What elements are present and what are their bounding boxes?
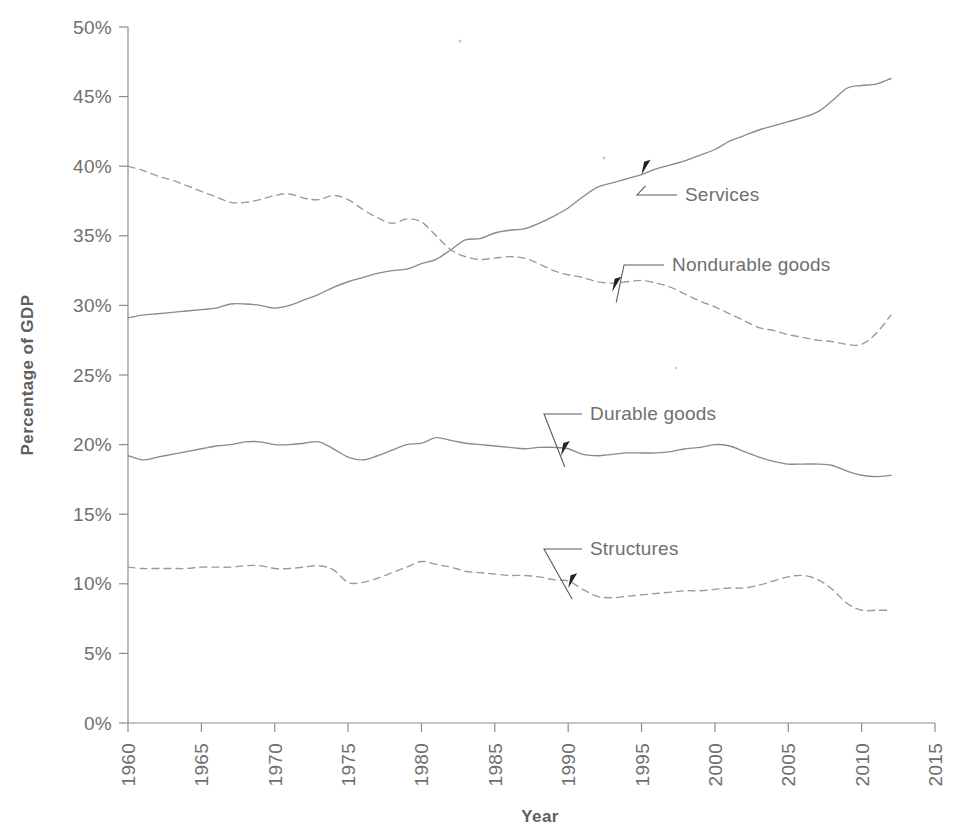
annotation-callout: Durable goods	[544, 403, 716, 467]
x-axis-ticks: 1960196519701975198019851990199520002005…	[118, 723, 946, 786]
x-tick-label: 1960	[118, 743, 139, 786]
y-tick-label: 45%	[73, 86, 112, 107]
series-line-services	[128, 79, 891, 318]
y-tick-label: 5%	[84, 643, 112, 664]
y-tick-label: 20%	[73, 434, 112, 455]
chart-figure: 0%5%10%15%20%25%30%35%40%45%50% 19601965…	[0, 0, 960, 840]
series-line-structures	[128, 561, 891, 610]
y-axis-title: Percentage of GDP	[18, 295, 37, 456]
background-specks	[82, 28, 678, 369]
series-label-services: Services	[685, 184, 759, 205]
x-tick-label: 1995	[632, 743, 653, 786]
x-tick-label: 2000	[705, 743, 726, 786]
annotation-group: ServicesNondurable goodsDurable goodsStr…	[544, 160, 830, 599]
y-tick-label: 10%	[73, 573, 112, 594]
y-tick-label: 15%	[73, 504, 112, 525]
series-label-durable-goods: Durable goods	[590, 403, 716, 424]
y-tick-label: 50%	[73, 17, 112, 38]
series-label-nondurable-goods: Nondurable goods	[672, 254, 830, 275]
x-tick-label: 1965	[191, 743, 212, 786]
series-label-structures: Structures	[590, 538, 679, 559]
annotation-callout: Services	[637, 160, 759, 205]
y-tick-label: 35%	[73, 225, 112, 246]
x-axis-title: Year	[521, 807, 559, 826]
y-tick-label: 0%	[84, 713, 112, 734]
y-tick-label: 25%	[73, 365, 112, 386]
x-tick-label: 2010	[852, 743, 873, 786]
x-tick-label: 2005	[778, 743, 799, 786]
x-tick-label: 1980	[411, 743, 432, 786]
series-line-durable-goods	[128, 438, 891, 477]
x-tick-label: 1985	[485, 743, 506, 786]
y-tick-label: 30%	[73, 295, 112, 316]
y-tick-label: 40%	[73, 156, 112, 177]
x-tick-label: 2015	[925, 743, 946, 786]
x-tick-label: 1970	[265, 743, 286, 786]
annotation-callout: Nondurable goods	[612, 254, 830, 303]
line-chart: 0%5%10%15%20%25%30%35%40%45%50% 19601965…	[0, 0, 960, 840]
x-tick-label: 1975	[338, 743, 359, 786]
data-series-group	[128, 79, 891, 611]
annotation-callout: Structures	[544, 538, 679, 599]
y-axis-ticks: 0%5%10%15%20%25%30%35%40%45%50%	[73, 17, 128, 734]
x-tick-label: 1990	[558, 743, 579, 786]
